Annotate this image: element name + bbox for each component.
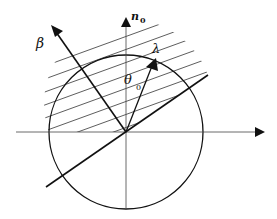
horizontal-axis-arrow-icon bbox=[255, 127, 265, 137]
lambda-label: λ bbox=[151, 41, 160, 56]
theta-subscript: 0 bbox=[136, 83, 141, 92]
vertical-axis-arrow-icon bbox=[121, 17, 131, 27]
n-subscript: 0 bbox=[140, 15, 146, 25]
n-label: n bbox=[131, 10, 139, 23]
beta-arrow-icon bbox=[51, 25, 63, 37]
beta-label: β bbox=[35, 35, 44, 51]
theta-label: θ bbox=[124, 72, 132, 87]
beta-vector bbox=[56, 32, 126, 132]
diagram-canvas: β n 0 λ θ 0 bbox=[0, 0, 277, 219]
